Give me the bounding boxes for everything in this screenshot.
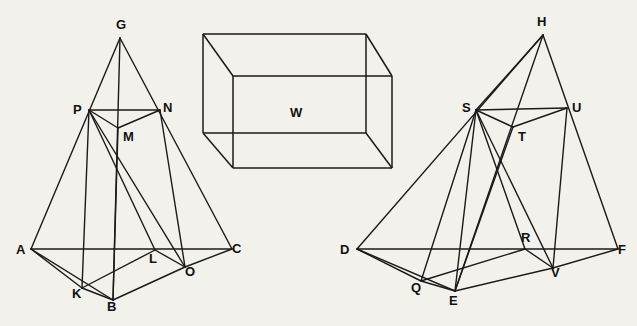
vertex-label-H: H <box>537 15 546 28</box>
vertex-label-U: U <box>572 101 581 114</box>
edge-BO <box>113 267 185 300</box>
vertex-label-L: L <box>149 252 157 265</box>
vertex-label-R: R <box>521 231 530 244</box>
edge-NO <box>160 110 185 267</box>
box-edge-front-tr-back-tr <box>366 34 392 76</box>
edge-SV <box>476 110 553 268</box>
vertex-label-K: K <box>72 287 81 300</box>
vertex-label-S: S <box>462 101 471 114</box>
edge-TU <box>513 108 567 127</box>
edge-QR <box>421 249 525 281</box>
vertex-label-G: G <box>116 18 126 31</box>
vertex-label-F: F <box>618 243 626 256</box>
geometry-figure-svg <box>0 0 637 326</box>
edge-MN <box>118 110 160 128</box>
edge-FH <box>543 35 618 249</box>
vertex-label-M: M <box>123 130 134 143</box>
right-pyramid-edges <box>357 35 618 291</box>
vertex-label-O: O <box>185 265 195 278</box>
vertex-label-C: C <box>232 242 241 255</box>
edge-UV <box>553 108 567 268</box>
edge-AG <box>31 38 120 249</box>
edge-SH <box>476 35 543 110</box>
diagram-canvas: GPNMACLOKBHSUTDFRVQEW <box>0 0 637 326</box>
edge-QE <box>421 281 455 291</box>
edge-PL <box>89 110 155 250</box>
edge-DE <box>357 249 455 291</box>
vertex-label-N: N <box>163 101 172 114</box>
box-label-W: W <box>290 106 302 119</box>
vertex-label-T: T <box>518 130 526 143</box>
edge-SE <box>455 110 476 291</box>
edge-TE <box>455 127 513 291</box>
box-edge-front-br-back-br <box>366 133 392 168</box>
edge-KL <box>82 250 155 288</box>
edge-CG <box>120 38 232 249</box>
vertex-label-P: P <box>73 103 82 116</box>
edge-VF <box>553 249 618 268</box>
vertex-label-E: E <box>449 294 458 307</box>
vertex-label-D: D <box>340 243 349 256</box>
edge-EV <box>455 268 553 291</box>
vertex-label-B: B <box>107 300 116 313</box>
box-edge-front-bl-back-bl <box>203 133 233 168</box>
edge-PK <box>82 110 89 288</box>
box-edge-front-tl-back-tl <box>203 34 233 76</box>
rectangular-prism-edges <box>203 34 392 168</box>
edge-AK <box>31 249 82 288</box>
vertex-label-Q: Q <box>411 281 421 294</box>
vertex-label-A: A <box>16 243 25 256</box>
left-pyramid-edges <box>31 38 232 300</box>
vertex-label-V: V <box>551 266 560 279</box>
edge-SU <box>476 108 567 110</box>
